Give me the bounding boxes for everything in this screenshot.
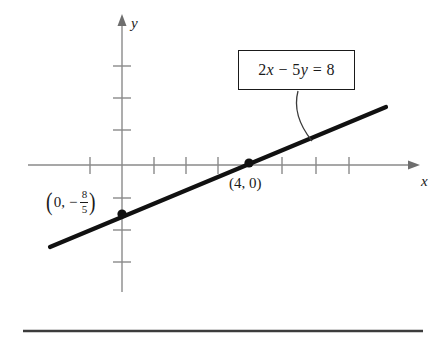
coordinate-x-value: 0, [54, 195, 65, 210]
y-axis-arrowhead [118, 14, 127, 26]
fraction-denominator: 5 [81, 204, 89, 216]
y-axis-group [113, 14, 131, 292]
close-paren: ) [89, 189, 96, 215]
open-paren: ( [46, 189, 53, 215]
point-marker-x-intercept [244, 158, 253, 167]
fraction-eight-fifths: 8 5 [80, 189, 88, 215]
equation-var-y: y [301, 61, 309, 78]
equation-coefficient-x: 2 [258, 61, 266, 78]
plotted-line [50, 107, 386, 247]
equation-constant: 8 [326, 61, 334, 78]
equation-equals: = [313, 61, 322, 78]
point-label-x-intercept: (4, 0) [229, 176, 262, 191]
equation-coefficient-y: 5 [292, 61, 300, 78]
graph-svg [0, 0, 445, 341]
equation-var-x: x [267, 61, 275, 78]
equation-callout-box: 2x − 5y = 8 [238, 50, 355, 90]
coordinate-pair: 0, − 8 5 [54, 189, 89, 215]
minus-sign: − [66, 195, 79, 210]
x-axis-arrowhead [408, 161, 420, 170]
equation-operator: − [278, 61, 287, 78]
fraction-numerator: 8 [81, 189, 89, 201]
point-label-y-intercept: ( 0, − 8 5 ) [45, 189, 97, 215]
point-marker-y-intercept [117, 209, 126, 218]
figure-canvas: y x (4, 0) ( 0, − 8 5 ) 2x − 5y = 8 [0, 0, 445, 341]
y-axis-label: y [131, 16, 138, 31]
x-axis-group [28, 157, 420, 174]
equation-text: 2x − 5y = 8 [258, 61, 335, 79]
callout-leader-line [296, 91, 312, 141]
x-axis-label: x [421, 174, 428, 189]
